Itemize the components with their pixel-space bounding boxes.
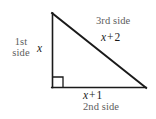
label-first-side: 1st side xyxy=(4,36,38,58)
triangle-figure: 1st side x 3rd side x+2 x+1 2nd side xyxy=(0,0,156,119)
base-operator: + xyxy=(88,89,97,101)
label-first-side-line2: side xyxy=(4,47,38,58)
label-first-side-line1: 1st xyxy=(4,36,38,47)
leg-vertical-variable: x xyxy=(37,42,42,54)
right-angle-marker-icon xyxy=(53,77,63,87)
label-second-side: 2nd side xyxy=(76,101,126,112)
label-base-expression: x+1 xyxy=(83,89,102,101)
label-third-side: 3rd side xyxy=(96,15,130,26)
hypotenuse-constant: 2 xyxy=(115,31,121,43)
base-constant: 1 xyxy=(97,89,103,101)
hypotenuse-operator: + xyxy=(106,31,115,43)
label-leg-vertical-expression: x xyxy=(37,42,42,54)
label-hypotenuse-expression: x+2 xyxy=(101,31,120,43)
